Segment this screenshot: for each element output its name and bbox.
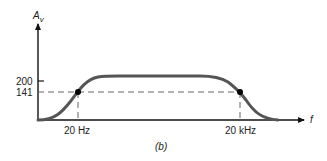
frequency-response-diagram: Av f 200 141 20 Hz 20 kHz (b) xyxy=(0,0,327,161)
y-axis-label: Av xyxy=(32,10,45,24)
x-tick-label-20khz: 20 kHz xyxy=(225,125,256,136)
cutoff-point-20khz xyxy=(237,89,243,95)
x-axis-label: f xyxy=(310,114,314,125)
cutoff-point-20hz xyxy=(75,89,81,95)
y-tick-label-200: 200 xyxy=(16,76,33,87)
caption: (b) xyxy=(155,141,167,152)
x-tick-label-20hz: 20 Hz xyxy=(64,125,90,136)
response-curve xyxy=(38,76,278,120)
y-tick-label-141: 141 xyxy=(16,87,33,98)
